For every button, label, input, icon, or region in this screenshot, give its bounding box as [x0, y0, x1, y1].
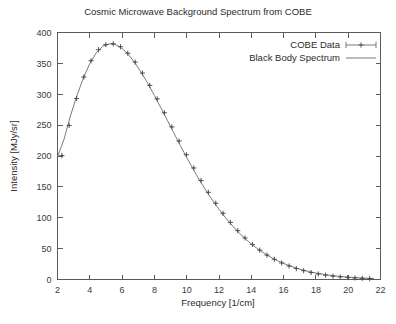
y-tick-label: 400 [36, 28, 51, 38]
y-tick-label: 150 [36, 182, 51, 192]
legend-entry-cobe-data-label: COBE Data [290, 39, 340, 50]
y-tick-label: 50 [41, 244, 51, 254]
x-tick-label: 18 [311, 285, 321, 295]
legend-entry-black-body-spectrum-label: Black Body Spectrum [249, 52, 340, 63]
x-tick-label: 2 [55, 285, 60, 295]
x-tick-label: 16 [279, 285, 289, 295]
y-tick-label: 300 [36, 90, 51, 100]
x-axis-title: Frequency [1/cm] [181, 297, 254, 308]
chart-title: Cosmic Microwave Background Spectrum fro… [84, 6, 312, 17]
y-tick-label: 200 [36, 151, 51, 161]
x-tick-label: 12 [214, 285, 224, 295]
cmb-spectrum-chart: Cosmic Microwave Background Spectrum fro… [0, 0, 396, 324]
x-tick-label: 22 [375, 285, 385, 295]
x-tick-label: 4 [87, 285, 92, 295]
x-tick-label: 6 [120, 285, 125, 295]
chart-figure: Cosmic Microwave Background Spectrum fro… [0, 0, 396, 324]
x-tick-label: 20 [343, 285, 353, 295]
y-tick-label: 350 [36, 59, 51, 69]
x-tick-label: 8 [152, 285, 157, 295]
y-tick-label: 100 [36, 213, 51, 223]
y-axis-title: Intensity [MJy/sr] [8, 120, 19, 191]
y-tick-label: 250 [36, 120, 51, 130]
y-tick-label: 0 [46, 275, 51, 285]
x-tick-label: 10 [182, 285, 192, 295]
x-tick-label: 14 [246, 285, 256, 295]
